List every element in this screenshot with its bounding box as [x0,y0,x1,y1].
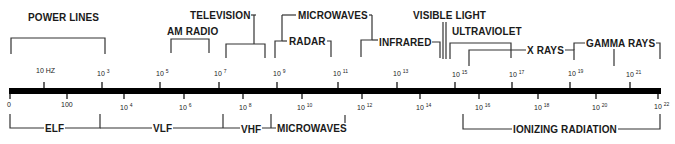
tick-1e20: 1020 [592,101,607,112]
band-elf: ELF [44,123,65,134]
tick-100: 100 [61,101,73,109]
tick-1e11: 1011 [333,67,348,78]
tick-1e3: 103 [97,67,110,78]
tick-1e6: 106 [179,101,192,112]
band-infrared: INFRARED [378,37,432,48]
band-gamma-rays: GAMMA RAYS [585,38,656,49]
band-radar: RADAR [288,36,327,47]
tick-1e9: 109 [273,67,286,78]
tick-1e15: 1015 [452,68,467,79]
band-vlf: VLF [152,123,173,134]
band-am-radio: AM RADIO [166,26,219,37]
tick-1e13: 1013 [393,67,408,78]
tick-1e17: 1017 [509,68,524,79]
band-x-rays: X RAYS [526,45,565,56]
spectrum-diagram: POWER LINES AM RADIO TELEVISION MICROWAV… [0,0,675,144]
tick-1e4: 104 [120,101,133,112]
band-ionizing-radiation: IONIZING RADIATION [512,124,618,135]
tick-1e8: 108 [239,101,252,112]
band-ultraviolet: ULTRAVIOLET [451,26,523,37]
tick-1e21: 1021 [626,68,641,79]
tick-10hz: 10 HZ [36,67,55,75]
tick-1e7: 107 [214,67,227,78]
tick-0: 0 [7,101,11,109]
tick-1e19: 1019 [568,67,583,78]
band-television: TELEVISION [189,10,251,21]
tick-1e18: 1018 [534,101,549,112]
tick-1e22: 1022 [654,100,669,111]
tick-1e12: 1012 [357,101,372,112]
tick-1e5: 105 [156,67,169,78]
band-microwaves-bottom: MICROWAVES [276,123,348,134]
band-microwaves-top: MICROWAVES [297,10,369,21]
band-vhf: VHF [240,124,262,135]
band-visible-light: VISIBLE LIGHT [412,10,487,21]
tick-1e10: 1010 [297,101,312,112]
band-power-lines: POWER LINES [27,12,100,23]
tick-1e16: 1016 [475,101,490,112]
tick-1e14: 1014 [416,101,431,112]
